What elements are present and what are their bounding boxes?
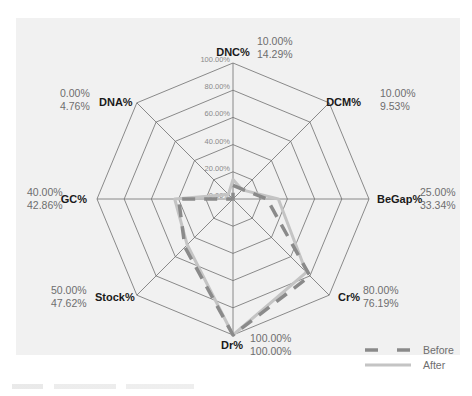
before-value-label: 10.00% (380, 87, 416, 99)
series-before (179, 185, 310, 335)
axis-label: Cr% (338, 291, 360, 303)
radial-tick-label: 20.00% (205, 164, 231, 173)
after-value-label: 4.76% (60, 100, 90, 112)
after-value-label: 42.86% (27, 199, 63, 211)
before-value-label: 100.00% (250, 332, 291, 344)
radar-chart: 0.00%20.00%40.00%60.00%80.00%100.00% DNC… (0, 0, 472, 396)
radial-tick-label: 40.00% (205, 137, 231, 146)
axis-label: DCM% (326, 96, 361, 108)
axis-label: Stock% (95, 291, 135, 303)
before-value-label: 80.00% (363, 284, 399, 296)
axis-label: Dr% (221, 339, 243, 351)
before-value-label: 25.00% (420, 186, 456, 198)
radial-tick-label: 60.00% (205, 109, 231, 118)
legend-after-label: After (423, 359, 446, 371)
series-after (175, 180, 307, 335)
after-value-label: 76.19% (363, 297, 399, 309)
axis-label: DNA% (99, 96, 133, 108)
axis-label: BeGap% (377, 193, 422, 205)
before-value-label: 50.00% (51, 284, 87, 296)
axis-labels: DNC%10.00%14.29%DCM%10.00%9.53%BeGap%25.… (27, 35, 456, 357)
axis-label: GC% (61, 193, 88, 205)
before-value-label: 10.00% (257, 35, 293, 47)
after-value-label: 47.62% (51, 297, 87, 309)
before-value-label: 40.00% (27, 186, 63, 198)
axis-label: DNC% (216, 46, 250, 58)
after-value-label: 33.34% (420, 199, 456, 211)
radial-tick-label: 80.00% (205, 82, 231, 91)
legend: Before After (365, 344, 454, 371)
legend-before-label: Before (423, 344, 454, 356)
after-value-label: 9.53% (380, 100, 410, 112)
before-value-label: 0.00% (60, 87, 90, 99)
after-value-label: 100.00% (250, 345, 291, 357)
after-value-label: 14.29% (257, 48, 293, 60)
figure-caption (12, 384, 272, 389)
radial-tick-labels: 0.00%20.00%40.00%60.00%80.00%100.00% (200, 55, 230, 200)
